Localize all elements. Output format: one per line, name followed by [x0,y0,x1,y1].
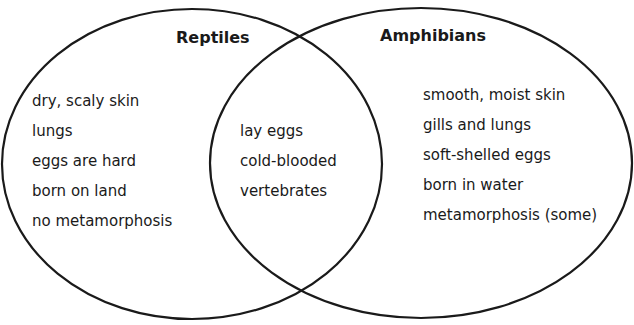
list-item: metamorphosis (some) [423,200,597,230]
intersection-list: lay eggs cold-blooded vertebrates [240,116,337,206]
list-item: eggs are hard [32,146,172,176]
reptiles-list: dry, scaly skin lungs eggs are hard born… [32,86,172,236]
list-item: born on land [32,176,172,206]
list-item: cold-blooded [240,146,337,176]
list-item: lay eggs [240,116,337,146]
list-item: no metamorphosis [32,206,172,236]
list-item: vertebrates [240,176,337,206]
list-item: lungs [32,116,172,146]
amphibians-list: smooth, moist skin gills and lungs soft-… [423,80,597,230]
venn-diagram: Reptiles Amphibians dry, scaly skin lung… [0,0,634,325]
list-item: dry, scaly skin [32,86,172,116]
list-item: soft-shelled eggs [423,140,597,170]
list-item: gills and lungs [423,110,597,140]
reptiles-title: Reptiles [176,28,250,47]
amphibians-title: Amphibians [380,26,486,45]
list-item: born in water [423,170,597,200]
list-item: smooth, moist skin [423,80,597,110]
